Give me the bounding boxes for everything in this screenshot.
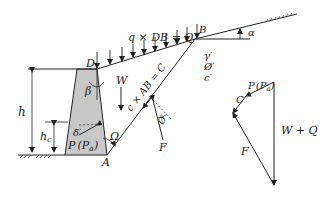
hc-label: hc bbox=[40, 130, 52, 144]
alpha-label: α bbox=[248, 27, 255, 38]
beta-label: β bbox=[84, 85, 91, 98]
polygon-P-label: P(Pa) bbox=[247, 80, 275, 93]
P-Pa-label: P(Pa) bbox=[67, 139, 98, 153]
gamma-label: γ′ bbox=[204, 50, 213, 61]
F-label: F bbox=[158, 141, 167, 154]
c-prime-label: c′ bbox=[204, 72, 213, 83]
cohesion-label: c × AB = C bbox=[124, 61, 168, 113]
omega-label: Ω bbox=[109, 130, 119, 143]
weight-label: W bbox=[116, 74, 129, 87]
h-label: h bbox=[18, 105, 26, 119]
failure-plane-AB bbox=[107, 39, 195, 155]
polygon-F-label: F bbox=[240, 145, 249, 158]
slope-hatch bbox=[266, 13, 292, 22]
cohesion-arrow bbox=[143, 97, 152, 108]
F-vector bbox=[233, 113, 274, 185]
polygon-C-label: C bbox=[236, 94, 244, 105]
phi-label: Ø′ bbox=[203, 61, 215, 72]
delta-label: δ′ bbox=[73, 127, 82, 138]
slope-surface bbox=[195, 14, 297, 39]
coulomb-wedge-diagram: q × DB = Q D B α β W c × AB = C γ′ Ø′ c′… bbox=[0, 0, 325, 199]
point-A-label: A bbox=[101, 156, 110, 169]
point-D-label: D bbox=[85, 57, 95, 70]
point-B-label: B bbox=[198, 24, 206, 35]
polygon-W-plus-Q-label: W + Q bbox=[281, 124, 318, 137]
surcharge-label: q × DB = Q bbox=[128, 31, 193, 44]
